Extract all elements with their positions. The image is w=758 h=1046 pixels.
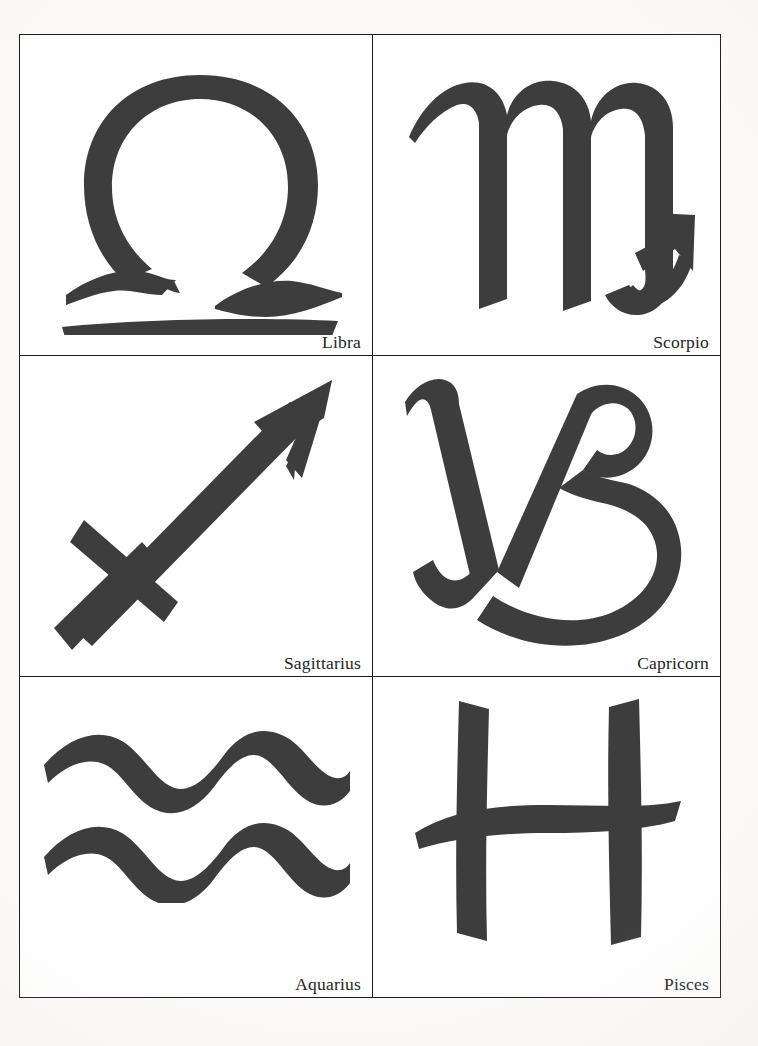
zodiac-cell-sagittarius[interactable]: Sagittarius <box>20 356 373 677</box>
zodiac-cell-scorpio[interactable]: Scorpio <box>373 35 720 356</box>
zodiac-label-scorpio: Scorpio <box>653 334 709 352</box>
pisces-symbol <box>373 677 720 997</box>
zodiac-symbol-plate: Libra <box>19 34 721 998</box>
zodiac-label-capricorn: Capricorn <box>637 655 709 673</box>
zodiac-label-pisces: Pisces <box>664 976 709 994</box>
aquarius-symbol <box>20 677 372 997</box>
zodiac-cell-aquarius[interactable]: Aquarius <box>20 677 373 997</box>
zodiac-cell-pisces[interactable]: Pisces <box>373 677 720 997</box>
zodiac-cell-capricorn[interactable]: Capricorn <box>373 356 720 677</box>
sagittarius-symbol <box>20 356 372 676</box>
capricorn-symbol <box>373 356 720 676</box>
scanned-page: Libra <box>0 0 758 1046</box>
zodiac-cell-libra[interactable]: Libra <box>20 35 373 356</box>
libra-symbol <box>20 35 372 355</box>
zodiac-label-aquarius: Aquarius <box>295 976 361 994</box>
zodiac-label-sagittarius: Sagittarius <box>284 655 361 673</box>
scorpio-symbol <box>373 35 720 355</box>
zodiac-label-libra: Libra <box>322 334 361 352</box>
